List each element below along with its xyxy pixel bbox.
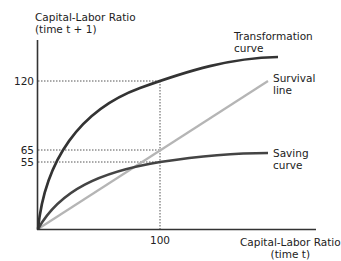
x-axis-label: Capital-Labor Ratio (time t): [240, 236, 341, 260]
saving-curve-label: Saving curve: [273, 147, 309, 171]
survival-line-label: Survival line: [273, 72, 315, 96]
survival-label-line1: Survival: [273, 72, 315, 84]
y-axis-label-line2: (time t + 1): [35, 23, 136, 35]
x-axis-label-line2: (time t): [240, 248, 341, 260]
survival-label-line2: line: [273, 84, 315, 96]
y-axis-label-line1: Capital-Labor Ratio: [35, 11, 136, 23]
saving-label-line1: Saving: [273, 147, 309, 159]
x-tick-100: 100: [145, 234, 175, 246]
transformation-curve-label: Transformation curve: [234, 30, 313, 54]
y-axis-label: Capital-Labor Ratio (time t + 1): [35, 11, 136, 35]
transformation-curve: [38, 57, 278, 229]
transformation-label-line1: Transformation: [234, 30, 313, 42]
y-tick-65: 65: [10, 144, 34, 156]
x-axis-label-line1: Capital-Labor Ratio: [240, 236, 341, 248]
transformation-label-line2: curve: [234, 42, 313, 54]
y-tick-55: 55: [10, 156, 34, 168]
y-tick-120: 120: [10, 75, 34, 87]
saving-label-line2: curve: [273, 159, 309, 171]
saving-curve: [38, 153, 268, 229]
